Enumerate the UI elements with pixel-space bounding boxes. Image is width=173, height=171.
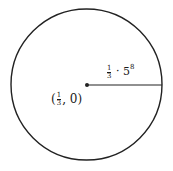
circle-diagram xyxy=(0,0,173,171)
center-fraction: 1 3 xyxy=(57,92,61,107)
radius-exponent: 8 xyxy=(130,63,134,71)
radius-frac-denominator: 3 xyxy=(107,72,111,80)
center-point xyxy=(85,83,89,87)
multiply-dot: · xyxy=(116,65,120,78)
center-frac-denominator: 3 xyxy=(57,99,61,107)
radius-label: 1 3 · 58 xyxy=(106,63,134,80)
radius-frac-numerator: 1 xyxy=(107,65,111,72)
center-label: ( 1 3 , 0) xyxy=(51,92,82,107)
center-frac-numerator: 1 xyxy=(57,92,61,99)
radius-base: 5 xyxy=(123,65,130,78)
center-coord-rest: , 0) xyxy=(62,92,82,106)
radius-fraction: 1 3 xyxy=(107,65,111,80)
center-open-paren: ( xyxy=(51,92,56,106)
